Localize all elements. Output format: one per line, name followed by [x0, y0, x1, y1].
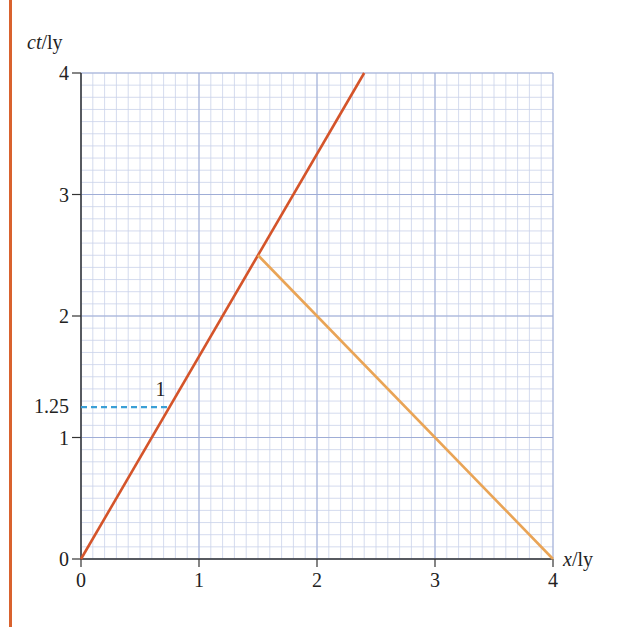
- axes: 01234011.25234: [34, 62, 558, 591]
- x-tick-label: 4: [548, 569, 558, 591]
- y-tick-label: 1.25: [34, 395, 69, 417]
- axis-labels: ct/ly x/ly: [27, 31, 593, 571]
- series-line: [258, 255, 553, 559]
- y-tick-label: 4: [59, 62, 69, 84]
- x-tick-label: 0: [76, 569, 86, 591]
- y-tick-label: 1: [59, 427, 69, 449]
- y-tick-label: 3: [59, 184, 69, 206]
- x-tick-label: 3: [430, 569, 440, 591]
- x-axis-label: x/ly: [562, 548, 593, 571]
- margin-accent-bar: [9, 0, 12, 627]
- x-tick-label: 1: [194, 569, 204, 591]
- event-label: 1: [156, 378, 166, 400]
- y-tick-label: 0: [59, 548, 69, 570]
- y-tick-label: 2: [59, 305, 69, 327]
- chart-canvas: 01234011.25234 1 ct/ly x/ly: [0, 0, 625, 627]
- x-tick-label: 2: [312, 569, 322, 591]
- spacetime-diagram: 01234011.25234 1 ct/ly x/ly: [0, 0, 625, 627]
- y-axis-label: ct/ly: [27, 31, 63, 54]
